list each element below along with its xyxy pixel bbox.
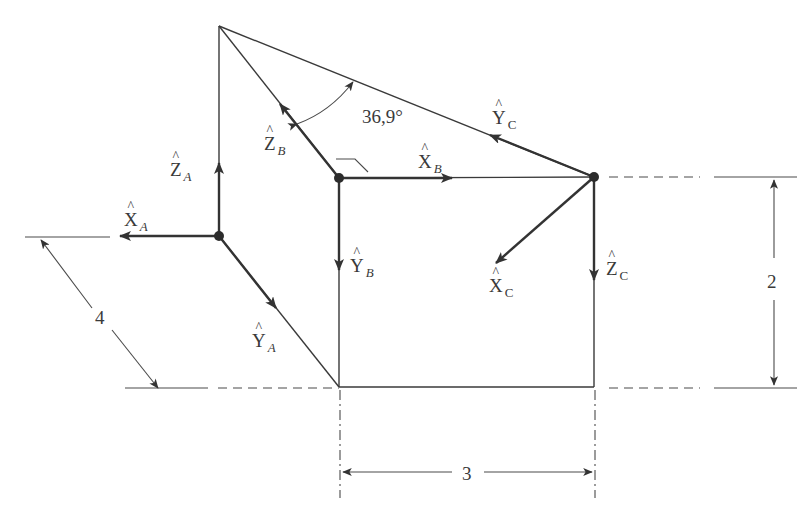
xc-letter: X [489,276,503,295]
yc-letter: Y [492,108,506,127]
ya-subscript: A [268,340,276,355]
right-angle-marker [336,159,368,172]
dim-4-line-upper [41,240,92,308]
xa-letter: X [124,210,138,229]
label-zc: ZC [606,259,628,278]
zb-letter: Z [264,134,276,153]
frame-a [120,163,276,308]
angle-arc [297,82,353,124]
label-xa: XA [124,210,148,229]
zc-subscript: C [620,268,629,283]
ya-letter: Y [252,331,266,350]
xb-subscript: B [434,161,442,176]
dim-4-line-lower [112,330,158,388]
frame-b [280,104,452,270]
label-ya: YA [252,331,276,350]
zc-letter: Z [606,259,618,278]
vector-ya [219,236,276,308]
label-zb: ZB [264,134,286,153]
frame-c [490,135,599,280]
yb-letter: Y [350,256,364,275]
label-xc: XC [489,276,513,295]
xb-letter: X [418,152,432,171]
xc-subscript: C [505,285,514,300]
frames-diagram [0,0,810,519]
origin-c [589,172,599,182]
dimension-label-3: 3 [460,464,474,483]
zb-subscript: B [278,143,286,158]
xa-subscript: A [140,219,148,234]
vector-zb [280,104,339,178]
label-xb: XB [418,152,442,171]
dimension-label-2: 2 [765,272,779,291]
label-za: ZA [170,160,192,179]
label-yc: YC [492,108,516,127]
vector-xc [496,177,594,263]
yc-subscript: C [508,117,517,132]
dimension-label-4: 4 [93,308,107,327]
origin-b [334,173,344,183]
vector-yc [490,135,594,177]
angle-label: 36,9° [362,107,403,126]
yb-subscript: B [366,265,374,280]
za-letter: Z [170,160,182,179]
origin-a [214,231,224,241]
za-subscript: A [184,169,192,184]
label-yb: YB [350,256,374,275]
